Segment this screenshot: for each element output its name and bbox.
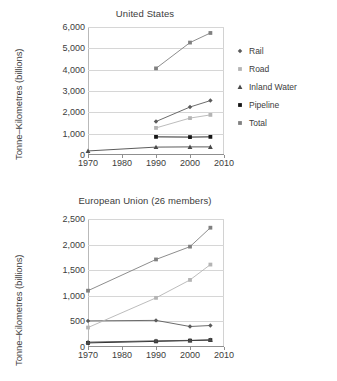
y-axis-tick-label: 2,000 (62, 107, 85, 117)
plot-area-european-union: 05001,0001,5002,0002,5001970198019902000… (88, 219, 224, 347)
data-series-layer (88, 219, 224, 347)
chart-panel-european-union: European Union (26 members) Tonne–Kilome… (0, 191, 337, 381)
legend-item-inland[interactable]: Inland Water (235, 78, 297, 96)
y-axis-tick-label: 6,000 (62, 22, 85, 32)
legend-label: Road (249, 65, 269, 74)
y-axis-tick-label: 2,000 (62, 240, 85, 250)
series-total (154, 31, 212, 70)
triangle-marker-icon (235, 82, 245, 92)
legend-item-rail[interactable]: Rail (235, 42, 297, 60)
data-series-layer (88, 27, 224, 155)
x-axis-tick-label: 1970 (78, 350, 98, 360)
chart-panel-united-states: United States Tonne–Kilometres (billions… (0, 0, 337, 190)
y-axis-label-united-states: Tonne–Kilometres (billions) (13, 49, 24, 160)
x-axis-tick-label: 1970 (78, 158, 98, 168)
x-axis-tick-label: 2000 (180, 350, 200, 360)
x-axis-tick-label: 1990 (146, 158, 166, 168)
diamond-marker-icon (235, 46, 245, 56)
square-marker-icon (235, 100, 245, 110)
x-axis-tick-label: 1980 (112, 350, 132, 360)
y-axis-tick-label: 1,000 (62, 129, 85, 139)
series-road (154, 113, 212, 130)
legend-label: Inland Water (249, 83, 297, 92)
y-axis-tick-label: 1,500 (62, 265, 85, 275)
y-axis-tick-label: 500 (70, 316, 85, 326)
x-axis-tick-label: 2010 (214, 158, 234, 168)
y-axis-tick-label: 3,000 (62, 86, 85, 96)
legend-label: Total (249, 119, 267, 128)
y-axis-tick-label: 1,000 (62, 291, 85, 301)
y-axis-tick-label: 4,000 (62, 65, 85, 75)
plot-area-united-states: 01,0002,0003,0004,0005,0006,000197019801… (88, 27, 224, 155)
series-total (86, 226, 212, 293)
legend-item-pipe[interactable]: Pipeline (235, 96, 297, 114)
legend-item-total[interactable]: Total (235, 114, 297, 132)
x-axis-tick-label: 1990 (146, 350, 166, 360)
y-axis-tick-label: 5,000 (62, 43, 85, 53)
series-pipe (154, 135, 212, 139)
square-marker-icon (235, 64, 245, 74)
y-axis-tick-label: 2,500 (62, 214, 85, 224)
series-inland (86, 144, 213, 152)
square-marker-icon (235, 118, 245, 128)
legend-label: Rail (249, 47, 264, 56)
x-axis-tick-label: 1980 (112, 158, 132, 168)
legend-label: Pipeline (249, 101, 279, 110)
series-road (86, 263, 212, 330)
legend-united-states: RailRoadInland WaterPipelineTotal (235, 42, 297, 132)
x-axis-tick-label: 2010 (214, 350, 234, 360)
chart-title-european-union: European Union (26 members) (45, 195, 245, 206)
x-axis-tick-label: 2000 (180, 158, 200, 168)
chart-title-united-states: United States (55, 8, 235, 19)
legend-item-road[interactable]: Road (235, 60, 297, 78)
y-axis-label-european-union: Tonne–Kilometres (billions) (13, 255, 24, 366)
